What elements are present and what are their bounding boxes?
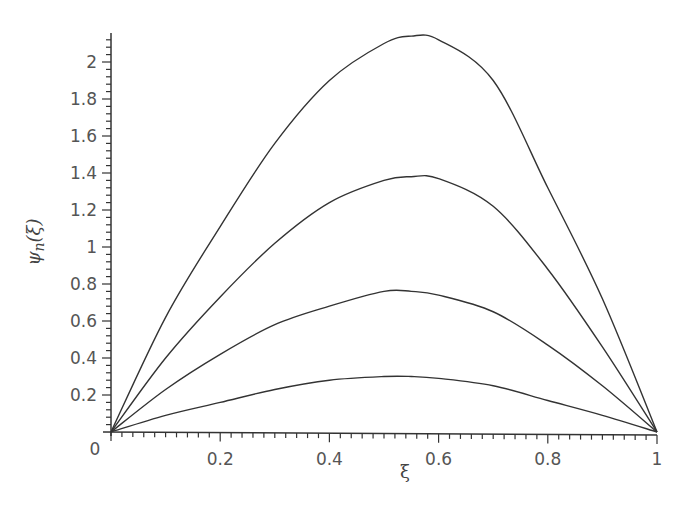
x-tick-label: 0.2 <box>207 449 234 469</box>
y-tick-label: 0.4 <box>70 348 97 368</box>
y-tick-label: 0.2 <box>70 385 97 405</box>
y-tick-label: 1.4 <box>70 163 97 183</box>
x-tick-label: 0.4 <box>316 449 343 469</box>
x-tick-label: 0.6 <box>425 449 452 469</box>
y-tick-labels: 0.20.40.60.811.21.41.61.82 <box>70 52 97 405</box>
y-axis-title: ψn(ξ) <box>23 218 47 265</box>
y-tick-label: 1 <box>86 237 97 257</box>
y-tick-label: 2 <box>86 52 97 72</box>
y-tick-label: 1.2 <box>70 200 97 220</box>
x-tick-label: 0.8 <box>534 449 561 469</box>
curve-4 <box>111 376 657 432</box>
y-tick-label: 0.8 <box>70 274 97 294</box>
x-tick-label: 1 <box>652 449 663 469</box>
curve-1 <box>111 35 657 432</box>
x-axis-title: ξ <box>400 461 410 482</box>
x-tick-label: 0 <box>90 439 101 459</box>
curve-3 <box>111 290 657 432</box>
y-tick-label: 1.8 <box>70 89 97 109</box>
plot-curves <box>111 35 657 432</box>
x-tick-labels: 00.20.40.60.81 <box>90 439 663 469</box>
y-tick-label: 0.6 <box>70 311 97 331</box>
chart-canvas: 00.20.40.60.81 0.20.40.60.811.21.41.61.8… <box>0 0 675 512</box>
y-axis <box>102 33 111 436</box>
x-axis <box>103 432 657 444</box>
y-tick-label: 1.6 <box>70 126 97 146</box>
curve-2 <box>111 176 657 432</box>
